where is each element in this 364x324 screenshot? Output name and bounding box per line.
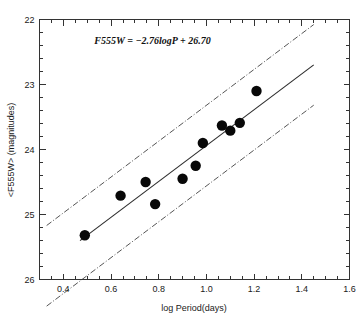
figure-background — [0, 0, 364, 324]
x-tick-label: 1.2 — [248, 284, 261, 294]
data-point — [150, 199, 160, 209]
plot-canvas: 0.40.60.81.01.21.41.6 2223242526 log Per… — [0, 0, 364, 324]
data-point — [140, 177, 150, 187]
y-axis-title: <F555W> (magnitudes) — [6, 103, 16, 198]
data-point — [115, 190, 125, 200]
x-tick-label: 1.0 — [200, 284, 213, 294]
y-tick-label: 26 — [24, 275, 34, 285]
x-tick-label: 1.6 — [343, 284, 356, 294]
data-point — [177, 174, 187, 184]
y-tick-label: 25 — [24, 210, 34, 220]
data-point — [190, 161, 200, 171]
data-point — [235, 118, 245, 128]
x-tick-label: 0.8 — [152, 284, 165, 294]
data-point — [80, 230, 90, 240]
data-point — [198, 138, 208, 148]
y-tick-label: 24 — [24, 145, 34, 155]
data-point — [225, 125, 235, 135]
x-tick-label: 0.6 — [105, 284, 118, 294]
y-tick-label: 23 — [24, 80, 34, 90]
y-tick-label: 22 — [24, 15, 34, 25]
fit-equation-annotation: F555W = −2.76logP + 26.70 — [93, 35, 210, 46]
data-point — [251, 86, 261, 96]
period-luminosity-figure: 0.40.60.81.01.21.41.6 2223242526 log Per… — [0, 0, 364, 324]
x-axis-title: log Period(days) — [161, 303, 227, 313]
x-tick-label: 1.4 — [296, 284, 309, 294]
x-tick-label: 0.4 — [57, 284, 70, 294]
